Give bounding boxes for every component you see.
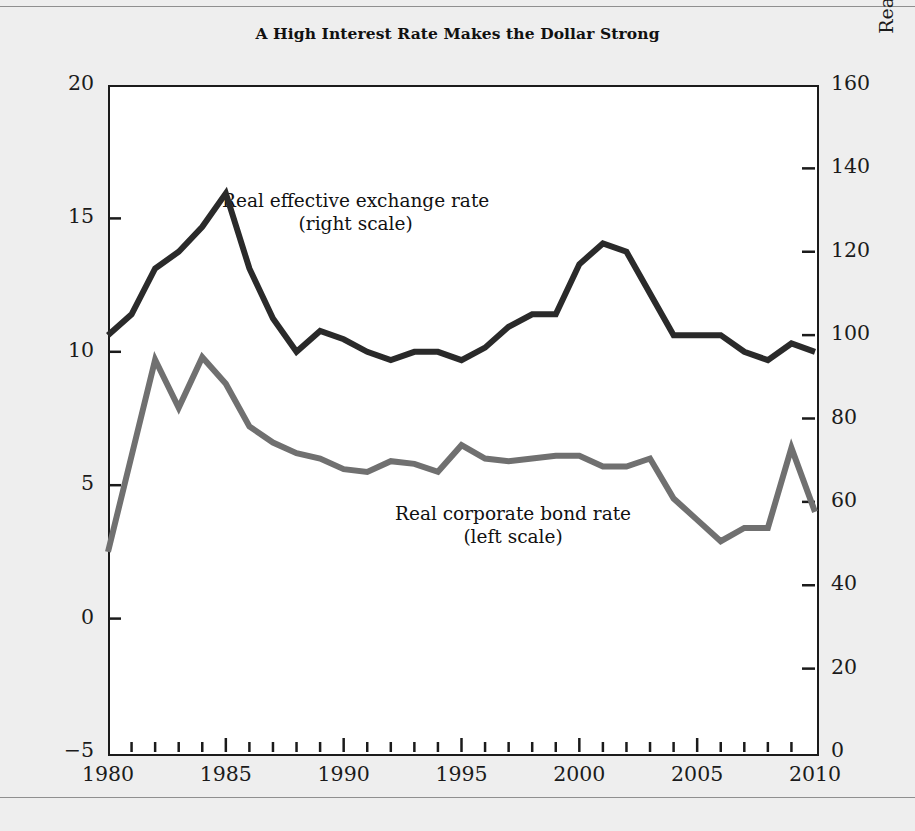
x-axis-tick-label: 1995 bbox=[422, 762, 502, 786]
y-axis-left-tick-label: 0 bbox=[24, 605, 94, 629]
series-line-real-effective-exchange-rate bbox=[108, 193, 815, 360]
x-axis-tick-label: 2010 bbox=[775, 762, 855, 786]
y-axis-left-tick-label: 5 bbox=[24, 471, 94, 495]
x-axis-tick-label: 2005 bbox=[657, 762, 737, 786]
y-axis-right-tick-label: 80 bbox=[831, 405, 901, 429]
x-axis-tick-label: 1990 bbox=[304, 762, 384, 786]
chart-plot bbox=[108, 85, 815, 752]
y-axis-right-tick-label: 140 bbox=[831, 154, 901, 178]
y-axis-right-tick-label: 0 bbox=[831, 738, 901, 762]
y-axis-left-tick-label: 20 bbox=[24, 71, 94, 95]
y-axis-right-tick-label: 120 bbox=[831, 238, 901, 262]
y-axis-left-tick-label: 10 bbox=[24, 338, 94, 362]
y-axis-right-tick-label: 60 bbox=[831, 488, 901, 512]
page-rule-top bbox=[0, 6, 915, 7]
y-axis-right-tick-label: 40 bbox=[831, 571, 901, 595]
x-axis-tick-label: 1980 bbox=[68, 762, 148, 786]
tick-marks-group bbox=[108, 168, 815, 752]
x-axis-tick-label: 2000 bbox=[539, 762, 619, 786]
series-line-real-corporate-bond-rate bbox=[108, 357, 815, 552]
y-axis-left-tick-label: −5 bbox=[24, 738, 94, 762]
chart-page: A High Interest Rate Makes the Dollar St… bbox=[0, 0, 915, 831]
y-axis-right-tick-label: 20 bbox=[831, 655, 901, 679]
page-title: A High Interest Rate Makes the Dollar St… bbox=[0, 24, 915, 43]
y-axis-right-tick-label: 100 bbox=[831, 321, 901, 345]
y-axis-left-tick-label: 15 bbox=[24, 204, 94, 228]
x-axis-tick-label: 1985 bbox=[186, 762, 266, 786]
page-rule-bottom bbox=[0, 797, 915, 798]
y-axis-right-tick-label: 160 bbox=[831, 71, 901, 95]
